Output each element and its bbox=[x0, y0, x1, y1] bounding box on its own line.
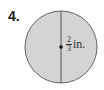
circle-figure bbox=[0, 0, 104, 90]
measurement-label: 2 3 in. bbox=[66, 36, 85, 53]
center-point bbox=[59, 45, 63, 49]
fraction: 2 3 bbox=[66, 36, 72, 53]
fraction-denominator: 3 bbox=[67, 45, 71, 53]
fraction-numerator: 2 bbox=[67, 36, 71, 44]
unit-label: in. bbox=[73, 37, 85, 52]
